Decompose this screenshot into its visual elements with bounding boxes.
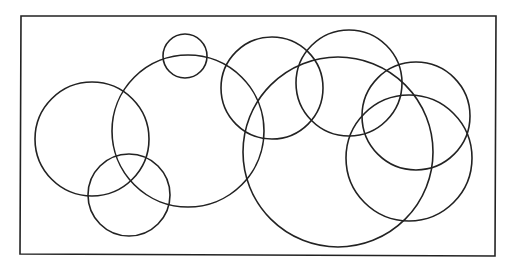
circle-right-upper [362, 62, 470, 170]
overlapping-circles-diagram [0, 0, 518, 264]
circle-right-lower [346, 95, 472, 221]
circle-upper-right-middle [296, 30, 402, 136]
diagram-canvas [0, 0, 518, 264]
frame-rectangle [20, 16, 496, 256]
circle-large-bottom-center [243, 57, 433, 247]
circles-group [35, 30, 472, 247]
circle-mid-top [221, 37, 323, 139]
